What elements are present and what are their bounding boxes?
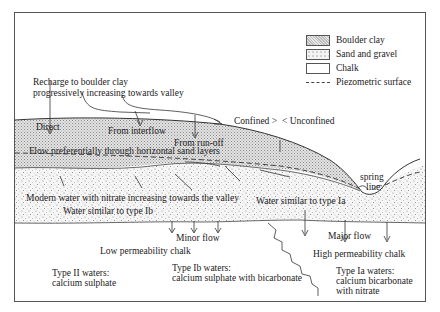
direct-label: Direct	[36, 122, 60, 132]
minor-flow-label: Minor flow	[176, 233, 220, 243]
boulder-clay-swatch	[306, 35, 330, 46]
recharge-label-2: progressively increasing towards valley	[33, 88, 184, 98]
modern-water-label: Modern water with nitrate increasing tow…	[26, 193, 239, 203]
sand-gravel-swatch	[306, 49, 330, 60]
confined-label: Confined >	[234, 116, 277, 126]
spring-label-2: line	[366, 182, 380, 192]
high-permeability-label: High permeability chalk	[313, 249, 405, 259]
water-type-ib-label: Water similar to type Ib	[63, 206, 153, 216]
low-permeability-label: Low permeability chalk	[100, 246, 191, 256]
flow-sand-layers-label: Flow preferentially through horizontal s…	[29, 146, 220, 156]
recharge-label-1: Recharge to boulder clay	[33, 77, 128, 87]
type1b-desc: calcium sulphate with bicarbonate	[172, 273, 302, 283]
type2-title: Type II waters:	[52, 268, 109, 278]
type2-desc: calcium sulphate	[52, 278, 116, 288]
type1a-desc-2: with nitrate	[336, 286, 380, 296]
type1a-title: Type Ia waters:	[336, 266, 394, 276]
spring-label-1: spring	[360, 172, 384, 182]
from-interflow-label: From interflow	[108, 126, 166, 136]
water-type-ia-label: Water similar to type Ia	[256, 196, 345, 206]
major-flow-label: Major flow	[328, 231, 371, 241]
permeability-boundary	[268, 223, 318, 296]
type1a-desc-1: calcium bicarbonate	[336, 276, 413, 286]
unconfined-label: < Unconfined	[282, 116, 335, 126]
type1b-title: Type Ib waters:	[172, 263, 231, 273]
chalk-swatch	[306, 63, 330, 74]
dashed-line-swatch	[306, 82, 330, 83]
